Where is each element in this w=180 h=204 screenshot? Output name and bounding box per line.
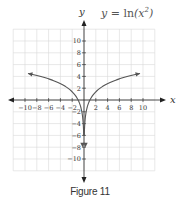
y-tick-label: 10 xyxy=(73,37,81,45)
y-tick-label: −10 xyxy=(67,155,81,163)
x-tick-label: −10 xyxy=(18,104,32,112)
x-tick-label: 10 xyxy=(139,104,147,112)
y-tick-label: −6 xyxy=(71,132,81,140)
y-tick-label: −2 xyxy=(71,108,81,116)
x-tick-label: 4 xyxy=(106,104,110,112)
x-tick-label: 6 xyxy=(117,104,121,112)
y-tick-label: 2 xyxy=(77,85,81,93)
x-axis-left-arrow-icon xyxy=(8,98,14,103)
x-tick-label: −8 xyxy=(32,104,42,112)
y-tick-label: 4 xyxy=(77,73,81,81)
y-axis-label: y xyxy=(78,6,85,17)
chart-plot: −10−8−6−4−2246810108642−2−4−6−8−10xy xyxy=(0,0,180,204)
y-axis-down-arrow-icon xyxy=(82,177,87,183)
y-tick-label: −4 xyxy=(71,120,81,128)
y-tick-label: −8 xyxy=(71,144,81,152)
curve-right-end-arrow-icon xyxy=(135,72,140,76)
chart-title: y = ln(x2) xyxy=(101,6,153,20)
x-tick-label: 2 xyxy=(94,104,98,112)
y-tick-label: 6 xyxy=(77,61,81,69)
x-tick-label: 8 xyxy=(129,104,133,112)
figure-caption: Figure 11 xyxy=(0,186,180,197)
x-axis-label: x xyxy=(170,94,176,105)
x-tick-label: −6 xyxy=(44,104,54,112)
y-axis-up-arrow-icon xyxy=(82,20,87,26)
x-tick-label: −4 xyxy=(56,104,66,112)
y-tick-label: 8 xyxy=(77,49,81,57)
curve-left-end-arrow-icon xyxy=(28,72,33,76)
x-axis-right-arrow-icon xyxy=(160,98,166,103)
